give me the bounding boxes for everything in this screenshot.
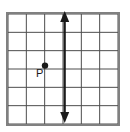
grid-diagram-svg — [0, 0, 130, 132]
grid-inner-lines — [8, 14, 118, 124]
vertical-double-arrow-line — [60, 11, 69, 123]
vertical-double-arrow-line-arrowhead-bottom — [60, 112, 69, 123]
grid-figure: P — [0, 0, 130, 132]
arrow-lines-layer — [60, 11, 69, 123]
point-p-label: P — [36, 68, 43, 79]
